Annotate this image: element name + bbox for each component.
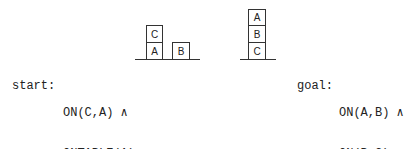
goal-conditions: ON(A,B) ∧ ON(B,C) bbox=[339, 80, 404, 149]
condition-line: ONTABLE(A) ∧ bbox=[63, 148, 149, 150]
goal-label: goal: bbox=[297, 80, 333, 94]
block-a: A bbox=[248, 9, 266, 26]
start-label: start: bbox=[12, 80, 55, 94]
start-state: start: ON(C,A) ∧ ONTABLE(A) ∧ ONTABLE(B)… bbox=[12, 80, 212, 140]
table-line bbox=[135, 59, 200, 60]
block-a: A bbox=[146, 42, 163, 60]
condition-line: ON(A,B) ∧ bbox=[339, 107, 404, 121]
condition-line: ON(C,A) ∧ bbox=[63, 107, 149, 121]
start-conditions: ON(C,A) ∧ ONTABLE(A) ∧ ONTABLE(B) ∧ ARME… bbox=[63, 80, 149, 149]
condition-line: ON(B,C) bbox=[339, 148, 404, 150]
goal-state: goal: ON(A,B) ∧ ON(B,C) bbox=[297, 80, 417, 110]
block-c: C bbox=[146, 25, 163, 43]
block-c: C bbox=[248, 42, 266, 60]
block-b: B bbox=[248, 25, 266, 43]
block-b: B bbox=[172, 42, 190, 60]
table-line bbox=[240, 59, 276, 60]
